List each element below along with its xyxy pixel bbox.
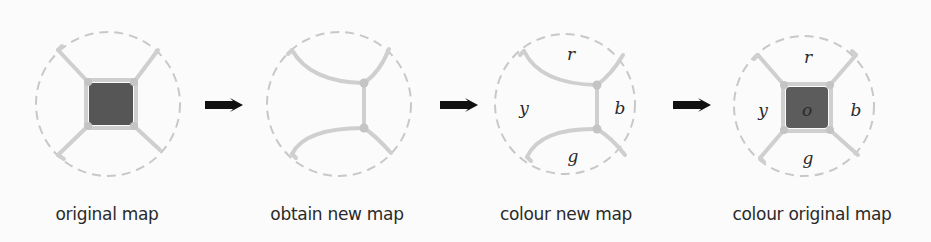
region-label-g: g: [803, 148, 814, 168]
region-label-r: r: [567, 44, 576, 64]
map-edges: [288, 49, 391, 158]
map-original: [36, 32, 180, 176]
map-edges: [520, 51, 625, 161]
arrow-icon: [673, 98, 711, 112]
map-new: [267, 32, 411, 176]
region-label-g: g: [568, 146, 579, 166]
region-label-y: y: [757, 100, 768, 120]
map-new-coloured: r y b g: [495, 34, 635, 174]
step-label-obtain-new-map: obtain new map: [270, 204, 403, 224]
region-label-b: b: [615, 98, 626, 118]
arrow-icon: [440, 98, 478, 112]
step-label-colour-new-map: colour new map: [500, 204, 632, 224]
region-label-b: b: [851, 100, 862, 120]
region-label-r: r: [804, 47, 813, 67]
map-original-coloured: r y o b g: [734, 36, 874, 176]
step-label-colour-original-map: colour original map: [732, 204, 891, 224]
arrow-icon: [205, 98, 243, 112]
region-label-y: y: [518, 98, 529, 118]
region-label-o: o: [802, 100, 812, 120]
central-region: [89, 83, 133, 125]
step-label-original-map: original map: [55, 204, 158, 224]
